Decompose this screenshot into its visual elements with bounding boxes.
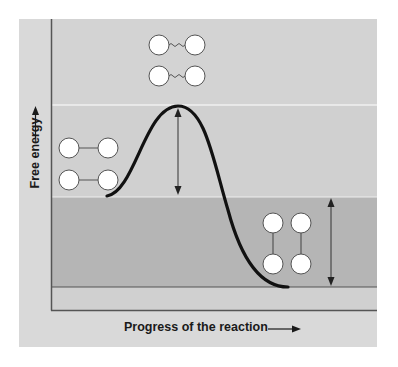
lower-band bbox=[52, 197, 377, 287]
atom bbox=[291, 254, 311, 274]
x-axis-label: Progress of the reaction bbox=[124, 320, 268, 334]
atom bbox=[59, 138, 79, 158]
atom bbox=[263, 254, 283, 274]
upper-band bbox=[52, 19, 377, 105]
y-axis-label: Free energy bbox=[28, 118, 42, 189]
atom bbox=[98, 170, 118, 190]
atom bbox=[59, 170, 79, 190]
atom bbox=[149, 35, 169, 55]
bottom-band bbox=[52, 287, 377, 310]
atom bbox=[149, 66, 169, 86]
atom bbox=[263, 213, 283, 233]
energy-diagram bbox=[0, 0, 398, 367]
atom bbox=[185, 35, 205, 55]
atom bbox=[291, 213, 311, 233]
atom bbox=[98, 138, 118, 158]
atom bbox=[185, 66, 205, 86]
right-arrow-icon bbox=[268, 326, 301, 333]
